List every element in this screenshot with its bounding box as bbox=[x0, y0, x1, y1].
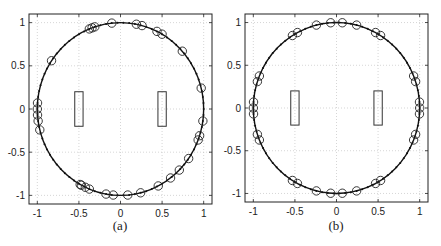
svg-text:1: 1 bbox=[417, 206, 423, 217]
caption-b: (b) bbox=[316, 218, 356, 234]
tick-labels: -1-0.500.51-1-0.500.51 bbox=[224, 14, 428, 217]
svg-text:0.5: 0.5 bbox=[371, 206, 385, 217]
svg-text:0.5: 0.5 bbox=[227, 60, 241, 71]
plot-b: -1-0.500.51-1-0.500.51 bbox=[0, 0, 441, 246]
svg-text:0: 0 bbox=[235, 103, 241, 114]
figure: -1-0.500.51-1-0.500.51 (a) -1-0.500.51-1… bbox=[0, 0, 441, 246]
svg-text:-1: -1 bbox=[232, 188, 241, 199]
svg-text:-0.5: -0.5 bbox=[286, 206, 304, 217]
svg-text:-1: -1 bbox=[249, 206, 258, 217]
svg-text:0: 0 bbox=[334, 206, 340, 217]
svg-text:1: 1 bbox=[235, 17, 241, 28]
svg-text:-0.5: -0.5 bbox=[224, 145, 242, 156]
grid-lines bbox=[245, 14, 428, 202]
